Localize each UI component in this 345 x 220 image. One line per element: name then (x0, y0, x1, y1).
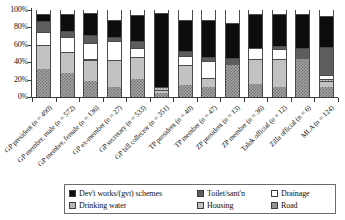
bar-segment-drainage (84, 43, 97, 59)
y-tick-label: 80% (14, 23, 28, 31)
plot-area: 0%20%40%60%80%100% (0, 0, 345, 104)
bar-segment-dev (226, 23, 239, 58)
bar-segment-road (179, 85, 192, 97)
legend-swatch-housing (197, 202, 204, 209)
y-tick-mark (28, 80, 31, 81)
bar-stack (201, 10, 216, 97)
bar-segment-toilet (84, 35, 97, 43)
bar-segment-housing (273, 59, 286, 88)
bar-segment-road (131, 79, 144, 97)
bar-segment-drainage (249, 48, 262, 58)
bar-segment-road (320, 87, 333, 97)
bars-container (32, 10, 338, 97)
bar-segment-drainage (131, 48, 144, 57)
legend-swatch-dev (69, 190, 76, 197)
legend-label: Housing (207, 201, 233, 210)
y-tick-label: 100% (10, 6, 28, 14)
bar-segment-road (273, 87, 286, 97)
bar-segment-road (249, 84, 262, 97)
bar-segment-housing (84, 60, 97, 82)
legend-item: Drinking water (69, 201, 197, 210)
bar-stack (319, 10, 334, 97)
bar-segment-dev (202, 20, 215, 57)
bar-segment-drainage (179, 56, 192, 65)
bar-stack (107, 10, 122, 97)
bar-segment-road (202, 87, 215, 97)
bar-segment-toilet (131, 41, 144, 48)
stacked-bar-chart: 0%20%40%60%80%100% GP president (n = 490… (0, 0, 345, 220)
legend-item: Toilet/sant'n (197, 189, 271, 198)
bar-stack (225, 10, 240, 97)
bar-segment-dev (249, 14, 262, 48)
bar-segment-road (61, 73, 74, 97)
bar-stack (295, 10, 310, 97)
legend-label: Dev't works/(gvt) schemes (79, 189, 162, 198)
bar-stack (272, 10, 287, 97)
bar-segment-housing (179, 65, 192, 85)
bar-stack (248, 10, 263, 97)
y-tick-label: 20% (14, 76, 28, 84)
bar-segment-road (108, 87, 121, 97)
bar-segment-toilet (320, 47, 333, 75)
bar-segment-drainage (61, 37, 74, 52)
bar-segment-dev (37, 14, 50, 22)
bar-stack (60, 10, 75, 97)
y-tick-mark (28, 45, 31, 46)
legend-swatch-water (69, 202, 76, 209)
bar-segment-road (37, 69, 50, 97)
bar-segment-dev (131, 15, 144, 41)
legend-swatch-drainage (271, 190, 278, 197)
bar-segment-toilet (296, 48, 309, 58)
legend-item: Housing (197, 201, 271, 210)
y-tick-label: 60% (14, 41, 28, 49)
bar-segment-dev (296, 14, 309, 48)
bar-segment-housing (108, 60, 121, 87)
legend-label: Road (281, 201, 298, 210)
bar-stack (154, 10, 169, 97)
bar-segment-drainage (108, 41, 121, 59)
bar-segment-drainage (273, 49, 286, 59)
x-axis-line (31, 97, 338, 98)
bar-segment-road (296, 59, 309, 97)
chart-legend: Dev't works/(gvt) schemesToilet/sant'nDr… (64, 184, 336, 214)
y-tick-mark (28, 10, 31, 11)
bar-segment-dev (273, 14, 286, 45)
bar-segment-drainage (37, 32, 50, 45)
bar-segment-toilet (37, 21, 50, 31)
bar-segment-toilet (226, 58, 239, 65)
bar-segment-housing (249, 59, 262, 84)
bar-segment-road (155, 93, 168, 97)
bar-segment-dev (108, 20, 121, 37)
legend-item: Dev't works/(gvt) schemes (69, 189, 197, 198)
legend-label: Toilet/sant'n (207, 189, 245, 198)
bar-segment-dev (320, 16, 333, 47)
y-tick-mark (28, 27, 31, 28)
bar-segment-housing (37, 45, 50, 69)
bar-stack (83, 10, 98, 97)
bar-segment-dev (155, 13, 168, 87)
bar-segment-dev (61, 14, 74, 31)
legend-swatch-toilet (197, 190, 204, 197)
legend-label: Drinking water (79, 201, 126, 210)
bar-segment-housing (61, 52, 74, 73)
bar-segment-dev (179, 20, 192, 51)
legend-item: Drainage (271, 189, 337, 198)
y-axis: 0%20%40%60%80%100% (0, 4, 30, 100)
bar-stack (130, 10, 145, 97)
legend-item: Road (271, 201, 337, 210)
bar-stack (36, 10, 51, 97)
bar-segment-housing (202, 78, 215, 87)
bar-segment-dev (84, 13, 97, 35)
y-tick-mark (28, 62, 31, 63)
x-axis-category-labels: GP president (n = 490)GP member, male (n… (0, 100, 345, 174)
bar-segment-drainage (202, 61, 215, 78)
bar-segment-housing (131, 57, 144, 79)
y-tick-mark (28, 97, 31, 98)
bar-segment-road (84, 81, 97, 97)
bar-segment-road (226, 65, 239, 97)
legend-label: Drainage (281, 189, 310, 198)
legend-swatch-road (271, 202, 278, 209)
y-tick-label: 40% (14, 58, 28, 66)
bar-stack (178, 10, 193, 97)
